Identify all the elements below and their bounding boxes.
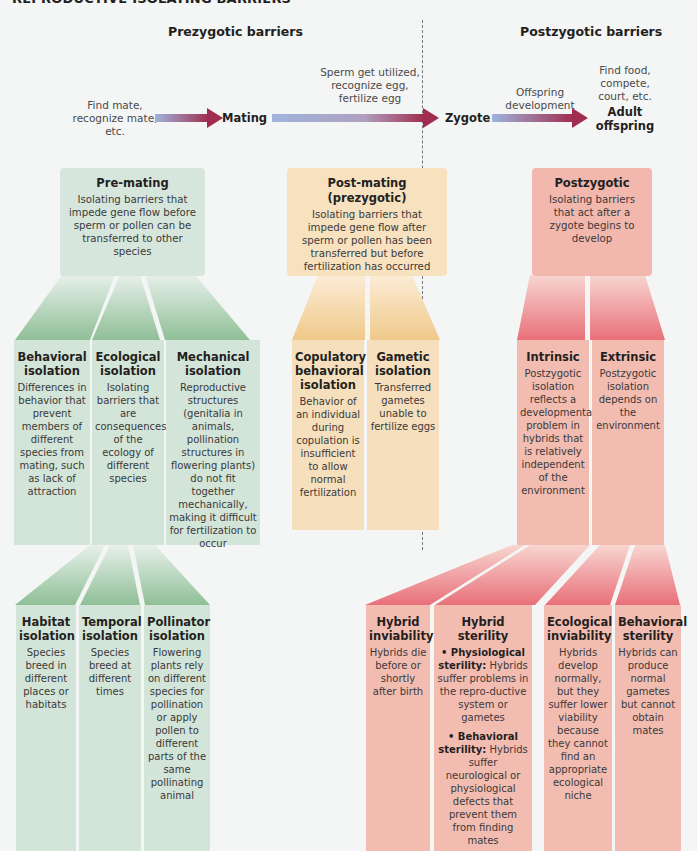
barrier-extrinsic: Extrinsic Postzygotic isolation depends … [592,340,664,545]
funnel-intrinsic [517,275,585,340]
barrier-title: Behavioral sterility [618,615,678,643]
barrier-behavioral-sterility: Behavioral sterility Hybrids can produce… [615,605,681,851]
funnel-gametic [370,275,440,340]
barrier-title: Copulatory behavioral isolation [295,350,361,392]
category-post-mating: Post-mating (prezygotic) Isolating barri… [287,168,447,276]
behavioral-sterility: • Behavioral sterility: Hybrids suffer n… [437,730,529,847]
barrier-hybrid-inviability: Hybrid inviability Hybrids die before or… [366,605,430,851]
barrier-title: Gametic isolation [370,350,436,378]
category-title: Postzygotic [538,176,646,191]
barrier-title: Temporal isolation [82,615,138,643]
physiological-sterility: • Physiological sterility: Hybrids suffe… [437,646,529,724]
barrier-copulatory-behavioral-isolation: Copulatory behavioral isolation Behavior… [292,340,364,530]
barrier-mechanical-isolation: Mechanical isolation Reproductive struct… [166,340,260,545]
barrier-intrinsic: Intrinsic Postzygotic isolation reflects… [517,340,589,545]
barrier-pollinator-isolation: Pollinator isolation Flowering plants re… [144,605,210,851]
barrier-description: Flowering plants rely on different speci… [147,646,207,802]
barrier-gametic-isolation: Gametic isolation Transferred gametes un… [367,340,439,530]
barrier-description: Differences in behavior that prevent mem… [17,381,87,498]
category-title: Pre-mating [66,176,199,191]
barrier-description: Hybrids can produce normal gametes but c… [618,646,678,737]
category-description: Isolating barriers that impede gene flow… [66,193,199,258]
barrier-description: Transferred gametes unable to fertilize … [370,381,436,433]
barrier-description: Postzygotic isolation reflects a develop… [520,367,586,497]
barrier-title: Hybrid sterility [437,615,529,643]
category-pre-mating: Pre-mating Isolating barriers that imped… [60,168,205,276]
funnel-pollinator [133,545,210,605]
barrier-temporal-isolation: Temporal isolation Species breed at diff… [79,605,141,851]
barrier-description: Behavior of an individual during copulat… [295,395,361,499]
barrier-title: Hybrid inviability [369,615,427,643]
barrier-title: Ecological inviability [547,615,609,643]
barrier-description: Hybrids die before or shortly after birt… [369,646,427,698]
barrier-description: Isolating barriers that are consequences… [95,381,161,485]
barrier-description: Species breed at different times [82,646,138,698]
funnel-copulatory [292,275,365,340]
category-title: Post-mating (prezygotic) [293,176,441,206]
barrier-description: Postzygotic isolation depends on the env… [595,367,661,432]
category-postzygotic: Postzygotic Isolating barriers that act … [532,168,652,276]
barrier-description: Hybrids develop normally, but they suffe… [547,646,609,802]
barrier-title: Pollinator isolation [147,615,207,643]
barrier-title: Mechanical isolation [169,350,257,378]
barrier-title: Ecological isolation [95,350,161,378]
category-description: Isolating barriers that impede gene flow… [293,208,441,273]
barrier-hybrid-sterility: Hybrid sterility • Physiological sterili… [434,605,532,851]
barrier-ecological-inviability: Ecological inviability Hybrids develop n… [544,605,612,851]
funnel-mechanical [145,275,250,340]
barrier-behavioral-isolation: Behavioral isolation Differences in beha… [14,340,90,545]
barrier-description: Species breed in different places or hab… [19,646,73,711]
funnel-extrinsic [590,275,665,340]
bullet-text: Hybrids suffer neurological or physiolog… [446,744,528,846]
barrier-title: Habitat isolation [19,615,73,643]
barrier-habitat-isolation: Habitat isolation Species breed in diffe… [16,605,76,851]
barrier-description: Reproductive structures (genitalia in an… [169,381,257,550]
barrier-title: Extrinsic [595,350,661,364]
category-description: Isolating barriers that act after a zygo… [538,193,646,245]
barrier-ecological-isolation: Ecological isolation Isolating barriers … [92,340,164,545]
barrier-title: Intrinsic [520,350,586,364]
barrier-title: Behavioral isolation [17,350,87,378]
